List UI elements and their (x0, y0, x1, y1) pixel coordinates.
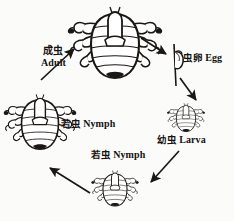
diagram-artwork (0, 0, 234, 221)
stage-label-nymph-left-en: Nymph (83, 118, 115, 129)
figure-larva (167, 103, 205, 131)
stage-label-larva-cn: 幼虫 (157, 134, 177, 145)
stage-label-nymph-bottom: 若虫Nymph (91, 150, 145, 161)
stage-label-larva-en: Larva (179, 134, 206, 145)
stage-label-egg-cn: 虫卵 (183, 52, 203, 63)
arrow-egg-to-larva (180, 78, 196, 100)
stage-label-larva: 幼虫Larva (157, 135, 206, 146)
stage-label-adult-cn: 成虫 (41, 46, 66, 57)
stage-label-nymph-left-cn: 若虫 (61, 118, 81, 129)
figure-nymph-bottom (91, 171, 138, 207)
stage-label-nymph-bottom-en: Nymph (113, 149, 145, 160)
life-cycle-diagram: 成虫 Adult 虫卵Egg 幼虫Larva 若虫Nymph 若虫Nymph (0, 0, 234, 221)
stage-label-nymph-bottom-cn: 若虫 (91, 149, 111, 160)
arrow-larva-to-nymph-bottom (151, 151, 179, 182)
stage-label-adult-en: Adult (41, 58, 66, 69)
stage-label-egg-en: Egg (205, 52, 222, 63)
stage-label-adult: 成虫 Adult (41, 46, 66, 69)
stage-label-egg: 虫卵Egg (183, 53, 222, 64)
stage-label-nymph-left: 若虫Nymph (61, 119, 115, 130)
arrow-nymph-bottom-to-nymph-left (50, 168, 90, 193)
